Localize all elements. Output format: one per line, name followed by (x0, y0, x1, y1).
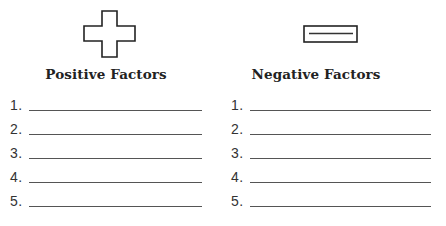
blank-line[interactable] (29, 206, 202, 207)
item-number: 5. (10, 193, 23, 209)
item-number: 2. (10, 121, 23, 137)
item-number: 1. (10, 97, 23, 113)
positive-factors-heading: Positive Factors (6, 66, 206, 82)
item-number: 4. (231, 169, 244, 185)
item-number: 3. (10, 145, 23, 161)
blank-line[interactable] (250, 134, 431, 135)
blank-line[interactable] (29, 134, 202, 135)
blank-line[interactable] (29, 182, 202, 183)
plus-icon (82, 10, 138, 60)
item-number: 2. (231, 121, 244, 137)
blank-line[interactable] (250, 182, 431, 183)
blank-line[interactable] (250, 206, 431, 207)
minus-icon (303, 25, 359, 44)
blank-line[interactable] (29, 158, 202, 159)
negative-factors-heading: Negative Factors (216, 66, 416, 82)
blank-line[interactable] (29, 110, 202, 111)
blank-line[interactable] (250, 158, 431, 159)
blank-line[interactable] (250, 110, 431, 111)
item-number: 1. (231, 97, 244, 113)
item-number: 5. (231, 193, 244, 209)
item-number: 3. (231, 145, 244, 161)
item-number: 4. (10, 169, 23, 185)
